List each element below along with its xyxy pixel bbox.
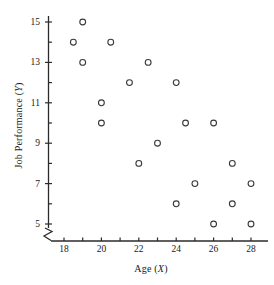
data-point: [70, 39, 76, 45]
data-point: [80, 60, 86, 66]
data-point: [229, 201, 235, 207]
data-point: [145, 60, 151, 66]
data-point: [136, 161, 142, 167]
data-point: [248, 221, 254, 227]
y-axis-title-main: Job Performance (: [13, 92, 24, 169]
data-point: [192, 181, 198, 187]
scatter-plot-figure: 579111315 182022242628 Age (X) Job Perfo…: [0, 0, 274, 285]
y-axis-title: Job Performance (Y): [13, 46, 24, 206]
data-point: [80, 19, 86, 25]
data-point: [173, 201, 179, 207]
data-point: [99, 120, 105, 126]
data-point-group: [70, 19, 253, 227]
data-point: [183, 120, 189, 126]
data-point: [248, 181, 254, 187]
y-axis-title-end: ): [13, 83, 24, 87]
x-tick-label: 18: [59, 244, 69, 254]
data-point: [99, 100, 105, 106]
data-point: [155, 140, 161, 146]
data-point: [108, 39, 114, 45]
data-point: [173, 80, 179, 86]
plot-canvas: [0, 0, 274, 285]
y-axis-title-variable: Y: [13, 86, 24, 92]
y-tick-label: 11: [31, 98, 40, 108]
x-axis-title-end: ): [164, 263, 168, 274]
data-point: [211, 120, 217, 126]
data-point: [211, 221, 217, 227]
x-axis-title: Age (X): [0, 263, 274, 274]
data-point: [127, 80, 133, 86]
x-tick-label: 24: [171, 244, 181, 254]
x-tick-label: 28: [246, 244, 256, 254]
x-tick-label: 22: [134, 244, 144, 254]
y-tick-label: 13: [31, 57, 41, 67]
axis-break-icon: [44, 228, 52, 241]
x-tick-label: 20: [97, 244, 107, 254]
y-tick-label: 15: [31, 17, 41, 27]
x-tick-label: 26: [209, 244, 219, 254]
y-tick-label: 7: [35, 179, 40, 189]
y-tick-label: 5: [35, 219, 40, 229]
y-tick-label: 9: [35, 138, 40, 148]
data-point: [229, 161, 235, 167]
x-axis-title-main: Age (: [134, 263, 158, 274]
